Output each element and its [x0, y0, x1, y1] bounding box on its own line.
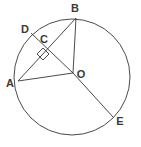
point-label-D: D — [21, 23, 29, 35]
point-label-C: C — [40, 33, 48, 45]
point-label-E: E — [116, 115, 123, 127]
segment-AO — [18, 73, 73, 81]
point-label-B: B — [71, 2, 79, 14]
geometry-figure: A B C D O E — [0, 0, 141, 147]
circle-outline — [14, 19, 130, 135]
segment-BO — [73, 18, 76, 73]
point-label-O: O — [77, 68, 86, 80]
point-label-A: A — [6, 77, 14, 89]
geometry-canvas: A B C D O E — [0, 0, 141, 147]
